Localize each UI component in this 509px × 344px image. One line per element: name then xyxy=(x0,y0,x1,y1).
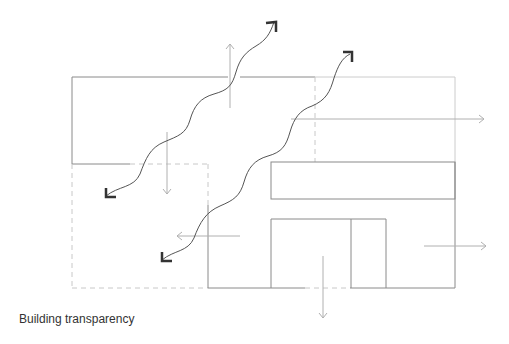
wave-arrow-1 xyxy=(106,22,276,197)
arrow-down-icon xyxy=(319,256,327,318)
right-volume xyxy=(208,162,455,288)
lower-left-volume xyxy=(72,77,350,288)
building-transparency-diagram xyxy=(0,0,509,344)
light-arrows xyxy=(163,44,486,318)
horizontal-band-window xyxy=(271,162,455,199)
arrow-up-icon xyxy=(226,44,234,108)
arrow-down-icon xyxy=(163,132,171,194)
entrance-doorway xyxy=(271,219,386,288)
diagram-caption: Building transparency xyxy=(19,312,134,326)
arrowhead-icon xyxy=(343,52,352,62)
wave-arrow-2 xyxy=(162,52,352,261)
